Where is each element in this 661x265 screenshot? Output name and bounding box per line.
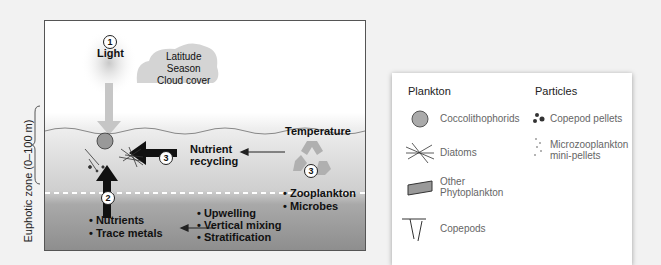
temperature-label: Temperature [285,125,351,137]
recycling-agents: • Zooplankton• Microbes [283,187,356,213]
legend-mini-pellets: Microzooplanktonmini-pellets [550,139,628,161]
ocean-diagram: 1 Light LatitudeSeasonCloud cover Temper… [44,20,366,251]
physical-processes: • Upwelling• Vertical mixing• Stratifica… [197,207,282,243]
recycle-number: 3 [304,160,318,178]
copepod-icon [402,219,426,241]
nutrient-recycling-label: Nutrientrecycling [190,143,238,167]
coccolithophorid-icon [412,111,428,127]
cloud-factors: LatitudeSeasonCloud cover [157,51,210,87]
recycling-number: 3 [159,147,173,165]
diatom-icon [406,143,434,163]
light-label: Light [97,47,124,59]
nutrients-list: • Nutrients• Trace metals [89,214,163,240]
mini-pellet-icon [534,138,542,156]
legend-diatoms: Diatoms [440,147,477,158]
legend-coccolithophorids: Coccolithophorids [440,113,520,124]
legend-copepod-pellets: Copepod pellets [550,113,622,124]
legend: Plankton Particles Coccolithophorids Dia… [392,73,632,265]
legend-other-phytoplankton: OtherPhytoplankton [440,176,503,198]
euphotic-zone-brace [30,104,42,186]
other-phytoplankton-icon [408,181,432,195]
nutrients-number: 2 [101,187,115,205]
copepod-pellet-icon [535,113,539,117]
temperature-arrow [241,149,285,155]
legend-copepods: Copepods [440,223,486,234]
